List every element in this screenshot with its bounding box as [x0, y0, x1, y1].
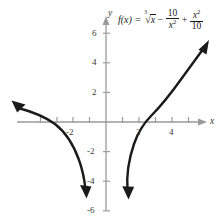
numerator-exponent: 2	[197, 8, 200, 15]
left-branch-arrowhead-down	[80, 185, 91, 199]
x-tick-label--2: -2	[66, 128, 74, 137]
function-equation: f(x) =3√x−10x2+x210	[118, 9, 204, 32]
fraction-x-squared-over-ten: x210	[190, 9, 204, 32]
curve-right-branch	[122, 40, 209, 200]
y-axis-label: y	[108, 9, 112, 19]
equation-operator-plus: +	[180, 14, 189, 25]
x-axis-label: x	[210, 117, 214, 127]
function-graph-figure: -2 2 4 6 4 2 -2 -4 -6 x y f(x) =3√x−10x2…	[0, 0, 224, 218]
fraction-denominator: x2	[166, 18, 180, 31]
curve-left-branch	[12, 101, 92, 199]
y-tick-label--4: -4	[87, 177, 95, 186]
equation-prefix: f(x) =	[118, 14, 141, 25]
right-branch-arrowhead-down	[122, 186, 134, 199]
denominator-exponent: 2	[173, 18, 176, 25]
fraction-denominator: 10	[190, 21, 204, 32]
x-tick-label-2: 2	[136, 128, 141, 137]
y-tick-label-6: 6	[92, 29, 97, 38]
y-tick-label-4: 4	[92, 58, 97, 67]
x-axis-arrowhead	[198, 119, 207, 126]
radicand: x	[150, 14, 156, 25]
cube-root-term: 3√x	[144, 14, 156, 25]
plot-canvas	[0, 0, 224, 218]
fraction-ten-over-x-squared: 10x2	[166, 9, 180, 32]
fraction-numerator: 10	[166, 9, 180, 19]
left-branch-arrowhead-up	[12, 101, 26, 113]
y-tick-label--2: -2	[87, 147, 95, 156]
radical-index: 3	[144, 10, 147, 16]
fraction-numerator: x2	[190, 9, 204, 21]
y-tick-label--6: -6	[87, 206, 95, 215]
y-tick-label-2: 2	[92, 88, 97, 97]
x-tick-label-4: 4	[169, 128, 174, 137]
equation-operator-minus: −	[156, 14, 165, 25]
